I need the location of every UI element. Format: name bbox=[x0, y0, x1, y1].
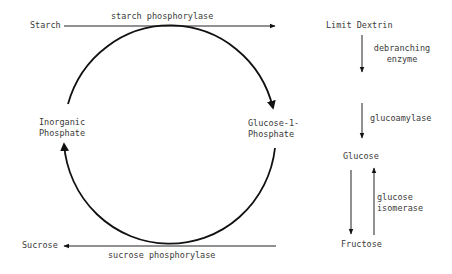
node-inorganic-phosphate-line1: Inorganic bbox=[39, 117, 85, 128]
node-sucrose: Sucrose bbox=[22, 240, 58, 251]
node-inorganic-phosphate: Inorganic Phosphate bbox=[39, 117, 85, 139]
enzyme-sucrose-phosphorylase: sucrose phosphorylase bbox=[108, 250, 215, 261]
cycle-top-arc bbox=[68, 25, 273, 108]
enzyme-starch-phosphorylase: starch phosphorylase bbox=[111, 11, 213, 22]
node-limit-dextrin: Limit Dextrin bbox=[326, 20, 393, 31]
node-glucose-1-phosphate: Glucose-1- Phosphate bbox=[248, 118, 299, 140]
node-starch: Starch bbox=[30, 20, 61, 31]
enzyme-glucoamylase: glucoamylase bbox=[370, 113, 431, 124]
enzyme-debranching-line2: enzyme bbox=[368, 54, 436, 65]
enzyme-glucose-isomerase: glucose isomerase bbox=[377, 192, 423, 214]
node-glucose: Glucose bbox=[343, 151, 379, 162]
enzyme-isomerase-line1: glucose bbox=[377, 192, 423, 203]
node-g1p-line2: Phosphate bbox=[248, 129, 299, 140]
enzyme-debranching: debranching enzyme bbox=[368, 43, 436, 65]
enzyme-debranching-line1: debranching bbox=[368, 43, 436, 54]
node-fructose: Fructose bbox=[341, 239, 382, 250]
node-inorganic-phosphate-line2: Phosphate bbox=[39, 128, 85, 139]
node-g1p-line1: Glucose-1- bbox=[248, 118, 299, 129]
enzyme-isomerase-line2: isomerase bbox=[377, 203, 423, 214]
cycle-bottom-arc bbox=[64, 144, 275, 244]
